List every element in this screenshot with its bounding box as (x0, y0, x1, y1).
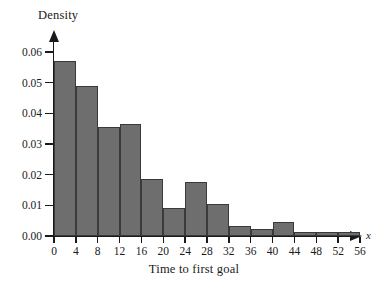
x-axis-title: Time to first goal (0, 262, 388, 277)
y-axis-tick-label: 0.02 (22, 169, 42, 181)
y-axis-tick-mark (45, 51, 54, 52)
x-axis-tick-label: 20 (158, 245, 170, 257)
histogram-bar (273, 222, 295, 236)
x-axis-tick-mark (228, 237, 229, 243)
histogram-bar (185, 182, 207, 236)
histogram-bar (98, 127, 120, 236)
x-axis-tick-label: 24 (179, 245, 191, 257)
x-axis-tick-label: 8 (95, 245, 101, 257)
x-axis-tick-mark (75, 237, 76, 243)
histogram-bar (338, 232, 360, 236)
x-axis-tick-mark (119, 237, 120, 243)
x-axis-tick-label: 56 (354, 245, 366, 257)
x-axis-variable-label: x (366, 229, 371, 241)
histogram-bar (163, 208, 185, 236)
x-axis-tick-mark (163, 237, 164, 243)
x-axis-tick-mark (53, 237, 54, 243)
histogram-figure: Density x 0.000.010.020.030.040.050.06 0… (0, 0, 388, 284)
x-axis-tick-label: 28 (201, 245, 213, 257)
histogram-bar (54, 61, 76, 236)
x-axis-tick-label: 52 (332, 245, 344, 257)
x-axis-tick-label: 36 (245, 245, 257, 257)
y-axis-tick-mark (45, 143, 54, 144)
histogram-bar (316, 232, 338, 236)
x-axis-tick-mark (97, 237, 98, 243)
x-axis-tick-label: 4 (73, 245, 79, 257)
histogram-bar (251, 229, 273, 236)
x-axis-tick-mark (184, 237, 185, 243)
plot-area (54, 52, 360, 236)
x-axis-tick-label: 40 (267, 245, 279, 257)
y-axis-tick-label: 0.01 (22, 199, 42, 211)
x-axis-tick-mark (337, 237, 338, 243)
x-axis-tick-mark (141, 237, 142, 243)
x-axis-tick-mark (206, 237, 207, 243)
x-axis-tick-mark (294, 237, 295, 243)
y-axis-title: Density (38, 8, 78, 23)
x-axis-tick-label: 16 (136, 245, 148, 257)
y-axis-tick-label: 0.05 (22, 77, 42, 89)
y-axis-tick-label: 0.00 (22, 230, 42, 242)
y-axis-tick-mark (45, 174, 54, 175)
y-axis-tick-mark (45, 113, 54, 114)
x-axis-tick-label: 44 (289, 245, 301, 257)
x-axis-tick-label: 48 (311, 245, 323, 257)
x-axis-tick-mark (272, 237, 273, 243)
x-axis-tick-mark (250, 237, 251, 243)
y-axis-tick-label: 0.04 (22, 107, 42, 119)
histogram-bar (229, 226, 251, 236)
x-axis-tick-label: 32 (223, 245, 235, 257)
x-axis-tick-mark (316, 237, 317, 243)
histogram-bar (76, 86, 98, 236)
histogram-bar (120, 124, 142, 236)
histogram-bar (294, 232, 316, 236)
x-axis-tick-label: 0 (51, 245, 57, 257)
y-axis-tick-mark (45, 82, 54, 83)
x-axis-tick-label: 12 (114, 245, 126, 257)
y-axis-tick-label: 0.06 (22, 46, 42, 58)
y-axis-tick-label: 0.03 (22, 138, 42, 150)
histogram-bar (141, 179, 163, 236)
x-axis-tick-mark (359, 237, 360, 243)
y-axis-tick-mark (45, 205, 54, 206)
histogram-bar (207, 204, 229, 236)
